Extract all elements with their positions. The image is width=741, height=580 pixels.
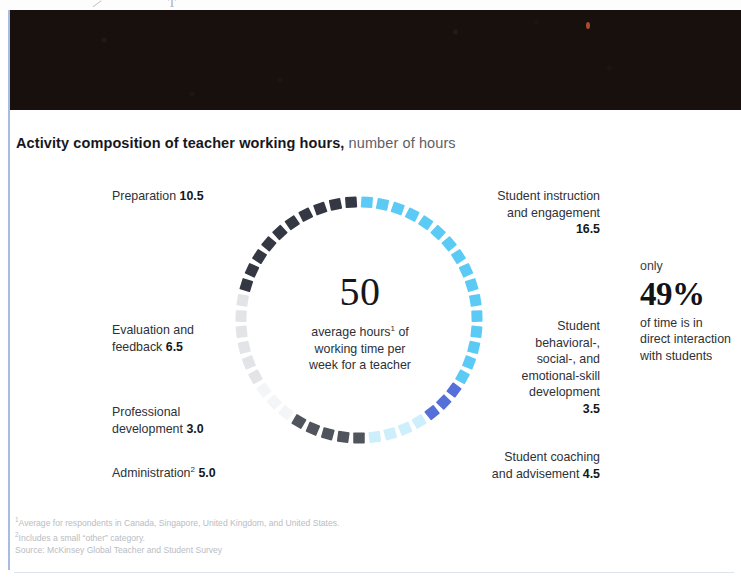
label-instruction-value: 16.5: [576, 222, 600, 236]
label-student-coaching: Student coaching and advisement 4.5: [448, 449, 600, 482]
label-instruction-line2: and engagement: [507, 206, 600, 220]
center-caption-line2: working time per: [315, 342, 406, 356]
donut-tick: [236, 294, 249, 307]
donut-center-value: 50: [286, 272, 434, 312]
label-evaluation-line2: feedback: [112, 340, 166, 354]
donut-tick: [376, 198, 389, 211]
label-behavioral-line2: behavioral-,: [535, 336, 600, 350]
label-administration: Administration2 5.0: [112, 462, 272, 482]
label-behavioral-line3: social-, and: [537, 352, 600, 366]
donut-tick: [405, 207, 420, 222]
donut-center-caption: average hours1 of working time per week …: [286, 321, 434, 374]
label-professional-value: 3.0: [186, 422, 203, 436]
donut-tick: [411, 414, 427, 429]
footnote-2: 2Includes a small “other” category.: [15, 529, 715, 544]
donut-tick: [353, 433, 365, 444]
label-evaluation-value: 6.5: [166, 340, 183, 354]
donut-tick: [298, 207, 313, 222]
donut-tick: [329, 198, 342, 211]
donut-tick: [418, 215, 434, 231]
donut-tick: [305, 421, 320, 436]
donut-tick: [266, 394, 282, 410]
donut-tick: [284, 215, 300, 231]
footnote-1-text: Average for respondents in Canada, Singa…: [19, 518, 340, 528]
label-behavioral-line4: emotional-skill: [521, 369, 600, 383]
donut-tick: [278, 405, 294, 421]
stat-desc-line1: of time is in: [640, 316, 703, 330]
label-coaching-value: 4.5: [583, 467, 600, 481]
donut-tick: [313, 201, 327, 215]
chart-title-main: Activity composition of teacher working …: [16, 135, 344, 151]
donut-tick: [321, 427, 335, 441]
stat-callout-kicker: only: [640, 258, 741, 275]
donut-tick: [383, 427, 397, 441]
label-coaching-line1: Student coaching: [504, 450, 600, 464]
donut-tick: [430, 225, 446, 241]
label-instruction-line1: Student instruction: [497, 189, 600, 203]
stat-desc-line2: direct interaction: [640, 332, 731, 346]
label-behavioral-line1: Student: [557, 319, 600, 333]
donut-tick: [368, 431, 381, 443]
footnote-2-text: Includes a small “other” category.: [19, 533, 145, 543]
label-professional-development: Professional development 3.0: [112, 404, 262, 437]
label-behavioral-value: 3.5: [583, 402, 600, 416]
stat-callout-description: of time is in direct interaction with st…: [640, 315, 741, 365]
donut-tick: [261, 236, 277, 252]
donut-tick: [245, 263, 260, 278]
footnote-source: Source: McKinsey Global Teacher and Stud…: [15, 545, 715, 557]
scan-top-margin: [0, 0, 741, 10]
donut-tick: [459, 263, 474, 278]
donut-tick: [451, 249, 466, 265]
donut-tick: [398, 421, 413, 436]
donut-tick: [361, 196, 373, 208]
label-evaluation-line1: Evaluation and: [112, 323, 194, 337]
label-preparation: Preparation 10.5: [112, 188, 272, 205]
label-coaching-line2: and advisement: [492, 467, 583, 481]
stat-callout: only 49% of time is in direct interactio…: [640, 258, 741, 364]
donut-tick: [469, 294, 482, 307]
donut-tick: [436, 394, 452, 410]
chart-title: Activity composition of teacher working …: [16, 135, 716, 151]
donut-tick: [239, 278, 253, 292]
donut-tick: [291, 414, 307, 429]
stat-desc-line3: with students: [640, 349, 712, 363]
donut-tick: [252, 249, 267, 265]
footnotes-block: 1Average for respondents in Canada, Sing…: [15, 514, 715, 557]
donut-tick: [248, 369, 263, 384]
donut-tick: [256, 382, 272, 398]
footnote-1: 1Average for respondents in Canada, Sing…: [15, 514, 715, 529]
label-evaluation-and-feedback: Evaluation and feedback 6.5: [112, 322, 262, 355]
center-caption-line1a: average hours: [311, 325, 390, 339]
label-preparation-text: Preparation: [112, 189, 180, 203]
donut-tick: [337, 431, 350, 443]
donut-tick: [242, 355, 256, 370]
center-caption-line1b: of: [395, 325, 409, 339]
label-preparation-value: 10.5: [180, 189, 204, 203]
label-professional-line2: development: [112, 422, 186, 436]
video-dark-band: [9, 10, 741, 110]
donut-tick: [465, 278, 479, 292]
stat-callout-value: 49%: [640, 276, 741, 312]
center-caption-line3: week for a teacher: [309, 358, 411, 372]
label-administration-footnote-marker: 2: [191, 465, 195, 474]
donut-tick: [441, 236, 457, 252]
page-bottom-rule: [14, 572, 734, 573]
label-student-behavioral-development: Student behavioral-, social-, and emotio…: [460, 318, 600, 417]
label-professional-line1: Professional: [112, 405, 180, 419]
label-student-instruction: Student instruction and engagement 16.5: [460, 188, 600, 238]
donut-tick: [235, 310, 246, 322]
chart-title-sub: number of hours: [344, 135, 455, 151]
donut-tick: [424, 405, 440, 421]
donut-center-block: 50 average hours1 of working time per we…: [286, 272, 434, 374]
donut-tick: [390, 201, 404, 215]
recording-indicator-dot: [586, 22, 590, 29]
donut-tick: [272, 225, 288, 241]
label-administration-text: Administration: [112, 466, 191, 480]
label-behavioral-line5: development: [529, 385, 600, 399]
donut-tick: [345, 196, 357, 208]
label-administration-value: 5.0: [198, 466, 215, 480]
